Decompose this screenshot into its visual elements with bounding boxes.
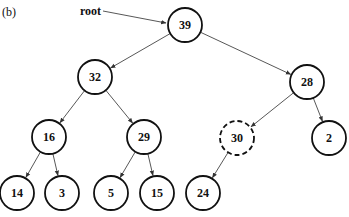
edge-28-to-2: [313, 98, 322, 121]
tree-node-32: 32: [78, 60, 112, 94]
edge-30-to-24: [212, 152, 228, 177]
tree-node-5: 5: [94, 176, 128, 210]
node-value: 32: [89, 70, 101, 84]
edge-28-to-30: [251, 93, 294, 127]
tree-node-39: 39: [168, 8, 202, 42]
tree-node-30: 30: [220, 121, 254, 155]
edge-16-to-3: [53, 154, 58, 176]
node-value: 3: [59, 186, 65, 200]
heap-tree-diagram: (b) root 393228162930214351524: [0, 0, 349, 217]
edge-32-to-29: [106, 90, 133, 123]
edge-32-to-16: [60, 90, 85, 122]
root-pointer-arrow: [103, 11, 166, 23]
tree-edges: [26, 32, 322, 177]
edge-29-to-15: [148, 154, 153, 176]
tree-node-14: 14: [0, 176, 34, 210]
node-value: 24: [197, 186, 209, 200]
tree-nodes: 393228162930214351524: [0, 8, 346, 210]
tree-node-24: 24: [186, 176, 220, 210]
node-value: 5: [108, 186, 114, 200]
tree-node-16: 16: [32, 120, 66, 154]
edge-39-to-32: [111, 34, 171, 68]
tree-node-29: 29: [127, 120, 161, 154]
node-value: 14: [11, 186, 23, 200]
node-value: 15: [151, 186, 163, 200]
edge-29-to-5: [120, 152, 135, 178]
node-value: 30: [231, 131, 243, 145]
root-pointer-label: root: [80, 4, 101, 18]
panel-label: (b): [2, 5, 16, 19]
node-value: 2: [326, 131, 332, 145]
tree-node-2: 2: [312, 121, 346, 155]
node-value: 28: [301, 75, 313, 89]
tree-node-3: 3: [45, 176, 79, 210]
edge-16-to-14: [26, 152, 41, 178]
tree-node-28: 28: [290, 65, 324, 99]
tree-node-15: 15: [140, 176, 174, 210]
node-value: 29: [138, 130, 150, 144]
edge-39-to-28: [200, 32, 290, 74]
node-value: 39: [179, 18, 191, 32]
node-value: 16: [43, 130, 55, 144]
